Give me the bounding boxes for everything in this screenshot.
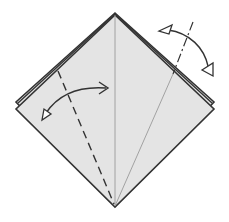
right-fold-line: [173, 22, 193, 74]
right-fold-arrow: [168, 30, 208, 66]
right-arrow-head-hollow-top: [159, 25, 172, 34]
origami-diagram: [0, 0, 229, 222]
